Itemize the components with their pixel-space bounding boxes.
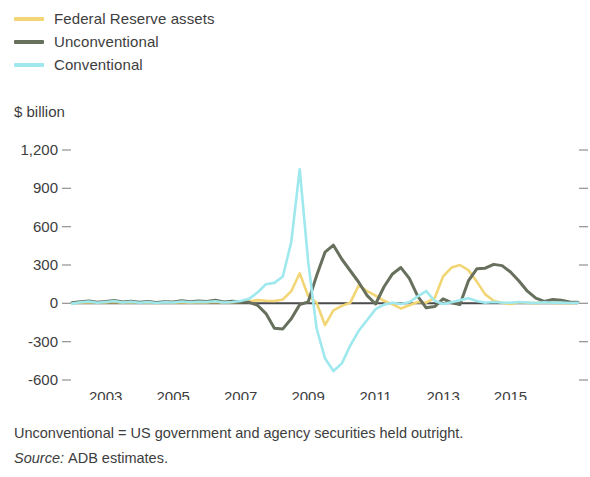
x-axis-tick-label: 2007 bbox=[224, 388, 257, 400]
y-axis-tick-label: 600 bbox=[33, 218, 58, 235]
chart-svg: 1,2009006003000-300-600 2003200520072009… bbox=[0, 0, 590, 400]
y-axis-tick-label: 1,200 bbox=[20, 141, 58, 158]
y-axis-tick-label: -600 bbox=[28, 371, 58, 388]
y-axis-tick-label: 0 bbox=[50, 294, 58, 311]
footnote-source-value: ADB estimates. bbox=[68, 450, 168, 466]
x-axis-tick-label: 2009 bbox=[291, 388, 324, 400]
x-axis-tick-labels: 2003200520072009201120132015 bbox=[89, 388, 527, 400]
y-axis-ticks-right bbox=[579, 150, 588, 380]
chart-plot-area: 1,2009006003000-300-600 2003200520072009… bbox=[0, 0, 590, 400]
y-axis-tick-labels: 1,2009006003000-300-600 bbox=[20, 141, 58, 388]
series-line-federal-reserve-assets bbox=[72, 265, 578, 325]
x-axis-tick-label: 2013 bbox=[426, 388, 459, 400]
series-line-conventional bbox=[72, 169, 578, 371]
footnote-source: Source: ADB estimates. bbox=[14, 446, 580, 471]
footnote-definition: Unconventional = US government and agenc… bbox=[14, 421, 580, 446]
y-axis-tick-label: 900 bbox=[33, 179, 58, 196]
footnote-source-label: Source: bbox=[14, 450, 64, 466]
y-axis-tick-label: -300 bbox=[28, 333, 58, 350]
data-series-group bbox=[72, 169, 578, 371]
x-axis-tick-label: 2005 bbox=[157, 388, 190, 400]
x-axis-tick-label: 2015 bbox=[494, 388, 527, 400]
chart-footnotes: Unconventional = US government and agenc… bbox=[14, 421, 580, 471]
series-line-unconventional bbox=[72, 245, 578, 329]
y-axis-ticks-left bbox=[62, 150, 71, 380]
y-axis-tick-label: 300 bbox=[33, 256, 58, 273]
x-axis-tick-label: 2011 bbox=[359, 388, 391, 400]
x-axis-tick-label: 2003 bbox=[89, 388, 122, 400]
